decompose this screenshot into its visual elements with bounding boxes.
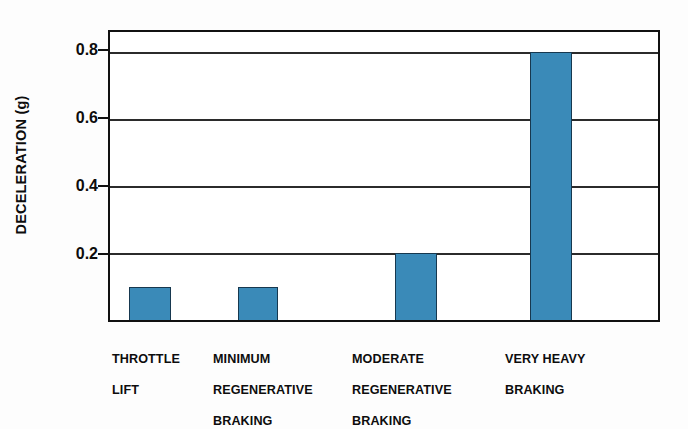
y-axis-title-text: DECELERATION (g) (13, 95, 29, 234)
x-label-line-2: LIFT (112, 383, 208, 399)
y-tick-label-0-4: 0.4 (42, 178, 98, 194)
x-label-line-1: THROTTLE (112, 352, 208, 368)
bar-3 (395, 253, 437, 320)
x-label-line-1: MODERATE (352, 352, 484, 368)
y-tick-label-0-6: 0.6 (42, 110, 98, 126)
x-label-line-1: MINIMUM (213, 352, 345, 368)
x-label-moderate-regenerative-braking: MODERATE REGENERATIVE BRAKING (352, 336, 484, 429)
bars-layer (110, 32, 658, 320)
bar-1 (129, 287, 171, 320)
y-tick-label-0-8: 0.8 (42, 42, 98, 58)
x-label-minimum-regenerative-braking: MINIMUM REGENERATIVE BRAKING (213, 336, 345, 429)
x-label-line-2: BRAKING (505, 383, 625, 399)
plot-area (108, 30, 660, 322)
x-label-very-heavy-braking: VERY HEAVY BRAKING (505, 336, 625, 414)
x-label-line-2: REGENERATIVE (352, 383, 484, 399)
x-axis-category-labels: THROTTLE LIFT MINIMUM REGENERATIVE BRAKI… (0, 336, 688, 416)
y-tick-label-0-2: 0.2 (42, 246, 98, 262)
x-label-line-1: VERY HEAVY (505, 352, 625, 368)
bar-2 (238, 287, 278, 320)
x-label-throttle-lift: THROTTLE LIFT (112, 336, 208, 414)
x-label-line-3: BRAKING (213, 414, 345, 429)
x-label-line-2: REGENERATIVE (213, 383, 345, 399)
bar-4 (530, 52, 572, 320)
x-label-line-3: BRAKING (352, 414, 484, 429)
